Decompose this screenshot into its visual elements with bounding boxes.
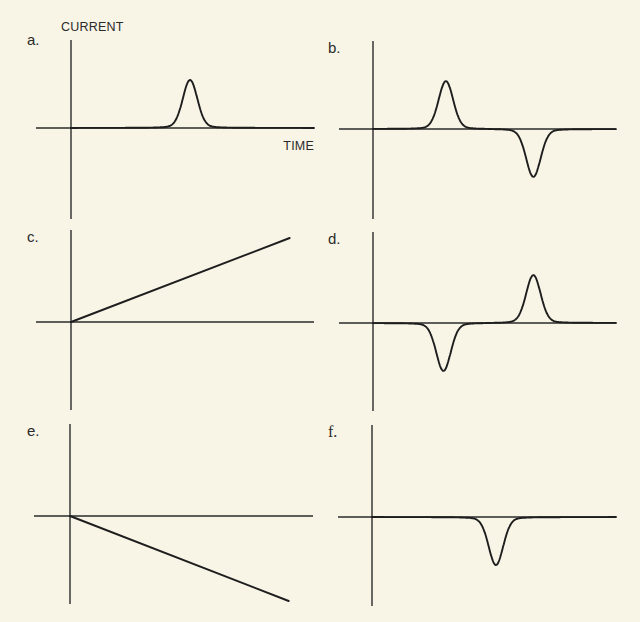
y-axis-title: CURRENT: [61, 20, 124, 34]
current-trace: [372, 517, 616, 565]
current-trace: [373, 275, 616, 371]
ramp-line: [71, 238, 290, 322]
panel-label: e.: [27, 422, 40, 439]
panel-label: f.: [328, 423, 337, 440]
panel-label: b.: [328, 39, 341, 56]
panel-label: c.: [27, 228, 39, 245]
x-axis-title: TIME: [283, 139, 314, 153]
ramp-line: [70, 516, 289, 601]
panel-f: f.: [328, 423, 616, 606]
panel-c: c.: [27, 228, 314, 410]
panel-d: d.: [328, 230, 616, 411]
current-vs-time-figure: a.CURRENTTIMEb.c.d.e.f.: [0, 0, 640, 622]
current-trace: [71, 80, 314, 128]
panel-label: a.: [27, 31, 40, 48]
panel-a: a.CURRENTTIME: [27, 20, 314, 219]
panel-e: e.: [27, 422, 313, 604]
current-trace: [373, 81, 616, 177]
panel-b: b.: [328, 39, 616, 219]
panel-label: d.: [328, 230, 341, 247]
